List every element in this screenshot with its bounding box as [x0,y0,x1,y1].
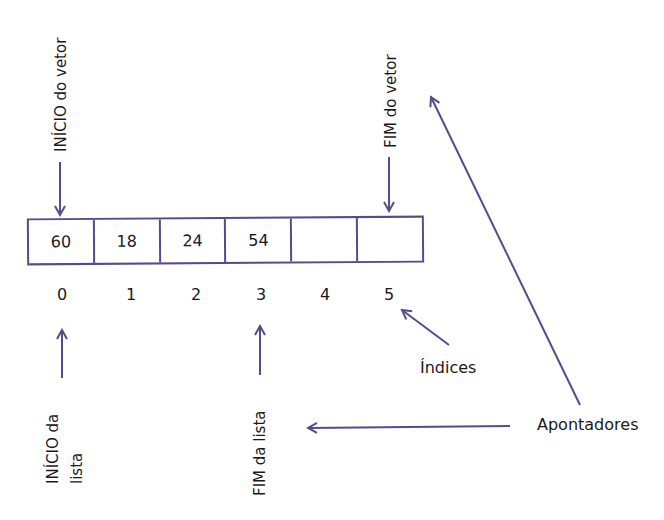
index-label: 3 [251,285,271,304]
array-cell: 18 [95,219,161,262]
indices-arrow [402,310,449,345]
inicio-vetor-label: INÍCIO do vetor [52,38,70,152]
vector-array: 60 18 24 54 [27,216,424,266]
array-cell [358,218,422,261]
index-label: 0 [52,285,72,304]
array-cell: 54 [226,219,292,262]
apontadores-arrow-left [308,426,510,428]
inicio-lista-label-line1: INÍCIO da [44,414,62,484]
array-cell: 60 [29,220,95,263]
array-cell [292,218,358,261]
index-label: 2 [186,285,206,304]
fim-vetor-label: FIM do vetor [382,54,400,148]
inicio-lista-label-line2: lista [68,453,86,484]
indices-label: Índices [420,358,476,377]
fim-lista-label: FIM da lista [251,411,269,496]
index-label: 4 [315,285,335,304]
index-label: 5 [379,285,399,304]
apontadores-label: Apontadores [537,415,638,434]
index-label: 1 [121,285,141,304]
array-cell: 24 [161,219,227,262]
